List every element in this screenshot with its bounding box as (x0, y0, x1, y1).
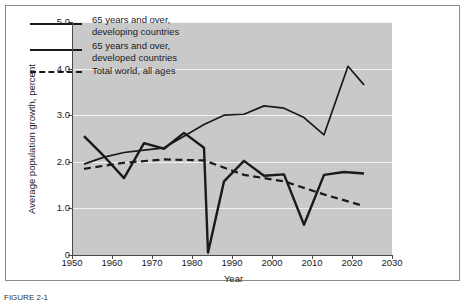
x-tick-label-1960: 1960 (92, 258, 132, 268)
y-tick-mark-2.0 (68, 162, 72, 163)
y-tick-mark-1.0 (68, 208, 72, 209)
x-tick-label-1970: 1970 (132, 258, 172, 268)
legend-label-developing-line2: developing countries (92, 26, 179, 38)
y-tick-label-2.0: 2.0 (30, 157, 70, 166)
legend-label-developing-line1: 65 years and over, (92, 14, 179, 26)
y-tick-label-5.0: 5.0 (30, 17, 70, 26)
x-tick-label-2000: 2000 (252, 258, 292, 268)
y-tick-mark-4.0 (68, 69, 72, 70)
x-tick-mark-1990 (232, 255, 233, 259)
legend-label-developed-line1: 65 years and over, (92, 40, 177, 52)
y-tick-label-1.0: 1.0 (30, 203, 70, 212)
x-tick-mark-2000 (272, 255, 273, 259)
y-tick-mark-3.0 (68, 115, 72, 116)
y-tick-label-4.0: 4.0 (30, 64, 70, 73)
y-axis-line (72, 22, 73, 255)
x-tick-mark-1960 (112, 255, 113, 259)
x-tick-mark-2030 (392, 255, 393, 259)
x-tick-mark-1950 (72, 255, 73, 259)
x-tick-label-2020: 2020 (332, 258, 372, 268)
x-tick-mark-1980 (192, 255, 193, 259)
x-tick-mark-2020 (352, 255, 353, 259)
series-developing-line (84, 66, 364, 164)
legend-label-developed-line2: developed countries (92, 52, 177, 64)
x-axis-label: Year (6, 273, 461, 284)
y-tick-label-3.0: 3.0 (30, 110, 70, 119)
y-tick-mark-5.0 (68, 22, 72, 23)
x-tick-label-2030: 2030 (372, 258, 412, 268)
x-tick-mark-1970 (152, 255, 153, 259)
x-tick-label-1950: 1950 (52, 258, 92, 268)
x-tick-label-2010: 2010 (292, 258, 332, 268)
legend-label-developed: 65 years and over, developed countries (92, 40, 177, 63)
x-tick-label-1980: 1980 (172, 258, 212, 268)
x-tick-mark-2010 (312, 255, 313, 259)
figure-panel: 65 years and over, developing countries … (5, 5, 460, 281)
legend-label-total-world: Total world, all ages (92, 65, 175, 77)
figure-caption: FIGURE 2-1 (4, 293, 264, 304)
y-axis-label: Average population growth, percent (26, 64, 37, 214)
x-tick-label-1990: 1990 (212, 258, 252, 268)
legend-label-developing: 65 years and over, developing countries (92, 14, 179, 37)
legend-swatch-developed (30, 49, 82, 51)
